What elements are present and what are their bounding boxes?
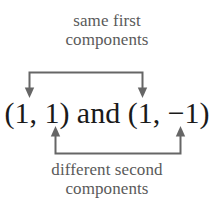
- top-bracket-path: [30, 73, 143, 91]
- bottom-bracket-path: [56, 134, 181, 154]
- bottom-annotation-label: different second components: [0, 160, 214, 198]
- top-annotation-line-1: same first: [0, 11, 214, 30]
- top-annotation-line-2: components: [0, 30, 214, 49]
- bottom-right-arrowhead: [176, 126, 185, 137]
- bottom-connector-bracket: [0, 122, 214, 160]
- bottom-annotation-line-2: components: [0, 179, 214, 198]
- top-annotation-label: same first components: [0, 11, 214, 49]
- bottom-left-arrowhead: [51, 126, 60, 137]
- ordered-pair-comparison-diagram: same first components (1, 1) and (1, −1)…: [0, 0, 214, 223]
- bottom-annotation-line-1: different second: [0, 160, 214, 179]
